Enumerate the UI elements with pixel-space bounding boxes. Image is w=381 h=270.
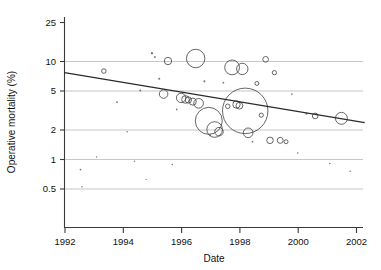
data-point	[259, 113, 263, 117]
data-point	[237, 63, 248, 74]
data-point	[116, 101, 118, 103]
x-tick-label-1994: 1994	[113, 236, 134, 247]
chart-container: 25105210.5 199219941996199820002002 Oper…	[0, 0, 381, 270]
data-point	[134, 160, 136, 162]
data-point	[223, 88, 268, 133]
data-point	[284, 140, 288, 144]
data-point	[176, 109, 178, 111]
data-point	[225, 104, 230, 109]
x-tick-label-1998: 1998	[229, 236, 250, 247]
data-point	[151, 52, 153, 54]
x-tick-label-1996: 1996	[171, 236, 192, 247]
data-point	[176, 93, 185, 102]
data-point	[255, 81, 259, 85]
regression-trend-line	[65, 73, 365, 123]
y-tick-label-0.5: 0.5	[43, 183, 56, 194]
data-point	[139, 90, 141, 92]
data-point	[81, 186, 83, 188]
data-point	[158, 78, 160, 80]
data-point	[207, 122, 223, 138]
x-tick-label-2002: 2002	[346, 236, 367, 247]
data-point	[102, 69, 107, 74]
data-point	[189, 98, 196, 105]
data-point	[222, 82, 224, 84]
y-tick-label-2: 2	[51, 124, 56, 135]
data-point	[297, 152, 299, 154]
y-axis-ticks-group: 25105210.5	[43, 17, 65, 195]
y-axis-title: Operative mortality (%)	[6, 71, 17, 173]
data-point	[252, 141, 254, 143]
data-point	[291, 93, 293, 95]
data-point	[203, 80, 205, 82]
y-tick-label-25: 25	[45, 17, 56, 28]
data-point	[267, 137, 274, 144]
data-point	[154, 56, 156, 58]
y-tick-label-5: 5	[51, 85, 56, 96]
data-point	[126, 131, 128, 133]
data-point	[272, 71, 276, 75]
data-point	[329, 163, 331, 165]
data-point	[349, 170, 351, 172]
data-point	[194, 98, 204, 108]
y-tick-label-1: 1	[51, 154, 56, 165]
data-points-group	[80, 49, 351, 187]
data-point	[80, 169, 82, 171]
x-axis-ticks-group: 199219941996199820002002	[54, 228, 367, 247]
y-tick-label-10: 10	[45, 56, 56, 67]
data-point	[164, 57, 171, 64]
data-point	[236, 102, 243, 109]
x-axis-title: Date	[203, 253, 225, 264]
data-point	[145, 179, 146, 180]
x-tick-label-1992: 1992	[54, 236, 75, 247]
x-tick-label-2000: 2000	[288, 236, 309, 247]
bubble-scatter-chart: 25105210.5 199219941996199820002002 Oper…	[0, 0, 381, 270]
data-point	[172, 164, 174, 166]
data-point	[96, 156, 97, 157]
data-point	[186, 49, 204, 67]
data-point	[277, 137, 283, 143]
